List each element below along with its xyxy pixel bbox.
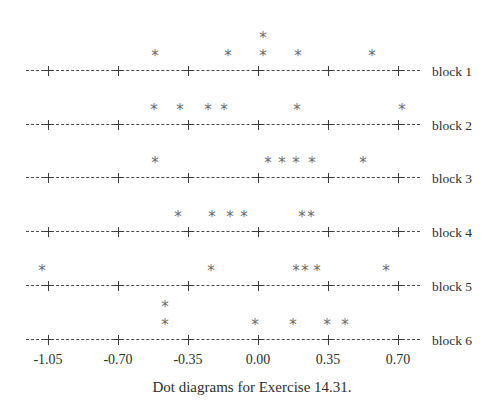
axis-tick-0 xyxy=(44,225,53,238)
data-point: * xyxy=(160,319,171,332)
axis-tick-0 xyxy=(44,171,53,184)
axis-tick-3 xyxy=(254,333,263,346)
axis-line xyxy=(0,225,504,239)
figure-caption: Dot diagrams for Exercise 14.31. xyxy=(0,378,504,396)
x-tick-label-1: -0.70 xyxy=(103,352,132,368)
data-point: * xyxy=(250,319,261,332)
axis-line xyxy=(0,333,504,347)
axis-dashes xyxy=(26,70,420,71)
axis-line xyxy=(0,279,504,293)
axis-dashes xyxy=(26,177,420,178)
axis-tick-5 xyxy=(394,64,403,77)
axis-tick-3 xyxy=(254,225,263,238)
axis-tick-2 xyxy=(184,64,193,77)
axis-tick-5 xyxy=(394,225,403,238)
data-point: * xyxy=(367,50,378,63)
axis-tick-0 xyxy=(44,118,53,131)
data-point: * xyxy=(160,301,171,314)
x-tick-label-0: -1.05 xyxy=(33,352,62,368)
data-point: * xyxy=(149,104,160,117)
axis-tick-5 xyxy=(394,118,403,131)
dot-diagram-figure: block 1******block 2******block 3******b… xyxy=(0,0,504,406)
data-point: * xyxy=(219,104,230,117)
data-point: * xyxy=(306,211,317,224)
axis-tick-1 xyxy=(114,64,123,77)
x-tick-label-5: 0.70 xyxy=(386,352,411,368)
axis-dashes xyxy=(26,285,420,286)
axis-tick-3 xyxy=(254,279,263,292)
axis-tick-3 xyxy=(254,64,263,77)
data-point: * xyxy=(263,157,274,170)
data-point: * xyxy=(312,265,323,278)
x-tick-label-4: 0.35 xyxy=(316,352,341,368)
data-point: * xyxy=(203,104,214,117)
data-point: * xyxy=(175,104,186,117)
axis-line xyxy=(0,64,504,78)
axis-tick-5 xyxy=(394,171,403,184)
block-label-1: block 1 xyxy=(432,65,472,78)
axis-tick-1 xyxy=(114,225,123,238)
axis-tick-4 xyxy=(324,118,333,131)
data-point: * xyxy=(150,50,161,63)
axis-tick-5 xyxy=(394,279,403,292)
axis-tick-0 xyxy=(44,333,53,346)
data-point: * xyxy=(173,211,184,224)
data-point: * xyxy=(150,157,161,170)
data-point: * xyxy=(225,211,236,224)
axis-tick-4 xyxy=(324,171,333,184)
data-point: * xyxy=(277,157,288,170)
data-point: * xyxy=(381,265,392,278)
block-label-6: block 6 xyxy=(432,334,472,347)
axis-dashes xyxy=(26,231,420,232)
data-point: * xyxy=(206,265,217,278)
data-point: * xyxy=(340,319,351,332)
data-point: * xyxy=(293,50,304,63)
axis-tick-0 xyxy=(44,279,53,292)
data-point: * xyxy=(292,104,303,117)
data-point: * xyxy=(207,211,218,224)
axis-tick-1 xyxy=(114,279,123,292)
x-tick-label-3: 0.00 xyxy=(246,352,271,368)
block-label-2: block 2 xyxy=(432,119,472,132)
data-point: * xyxy=(288,319,299,332)
axis-tick-4 xyxy=(324,279,333,292)
axis-tick-4 xyxy=(324,64,333,77)
axis-tick-0 xyxy=(44,64,53,77)
data-point: * xyxy=(300,265,311,278)
axis-line xyxy=(0,171,504,185)
axis-tick-3 xyxy=(254,118,263,131)
axis-tick-2 xyxy=(184,171,193,184)
axis-tick-1 xyxy=(114,171,123,184)
axis-tick-5 xyxy=(394,333,403,346)
data-point: * xyxy=(322,319,333,332)
block-label-5: block 5 xyxy=(432,280,472,293)
x-tick-label-2: -0.35 xyxy=(173,352,202,368)
data-point: * xyxy=(358,157,369,170)
data-point: * xyxy=(258,50,269,63)
data-point: * xyxy=(37,265,48,278)
axis-dashes xyxy=(26,124,420,125)
block-label-4: block 4 xyxy=(432,226,472,239)
data-point: * xyxy=(397,104,408,117)
axis-tick-4 xyxy=(324,225,333,238)
axis-tick-2 xyxy=(184,279,193,292)
data-point: * xyxy=(239,211,250,224)
data-point: * xyxy=(291,157,302,170)
axis-tick-2 xyxy=(184,225,193,238)
data-point: * xyxy=(223,50,234,63)
data-point: * xyxy=(307,157,318,170)
axis-tick-3 xyxy=(254,171,263,184)
axis-tick-2 xyxy=(184,333,193,346)
data-point: * xyxy=(258,32,269,45)
axis-tick-1 xyxy=(114,333,123,346)
axis-tick-1 xyxy=(114,118,123,131)
block-label-3: block 3 xyxy=(432,172,472,185)
axis-tick-2 xyxy=(184,118,193,131)
axis-line xyxy=(0,118,504,132)
axis-tick-4 xyxy=(324,333,333,346)
axis-dashes xyxy=(26,339,420,340)
